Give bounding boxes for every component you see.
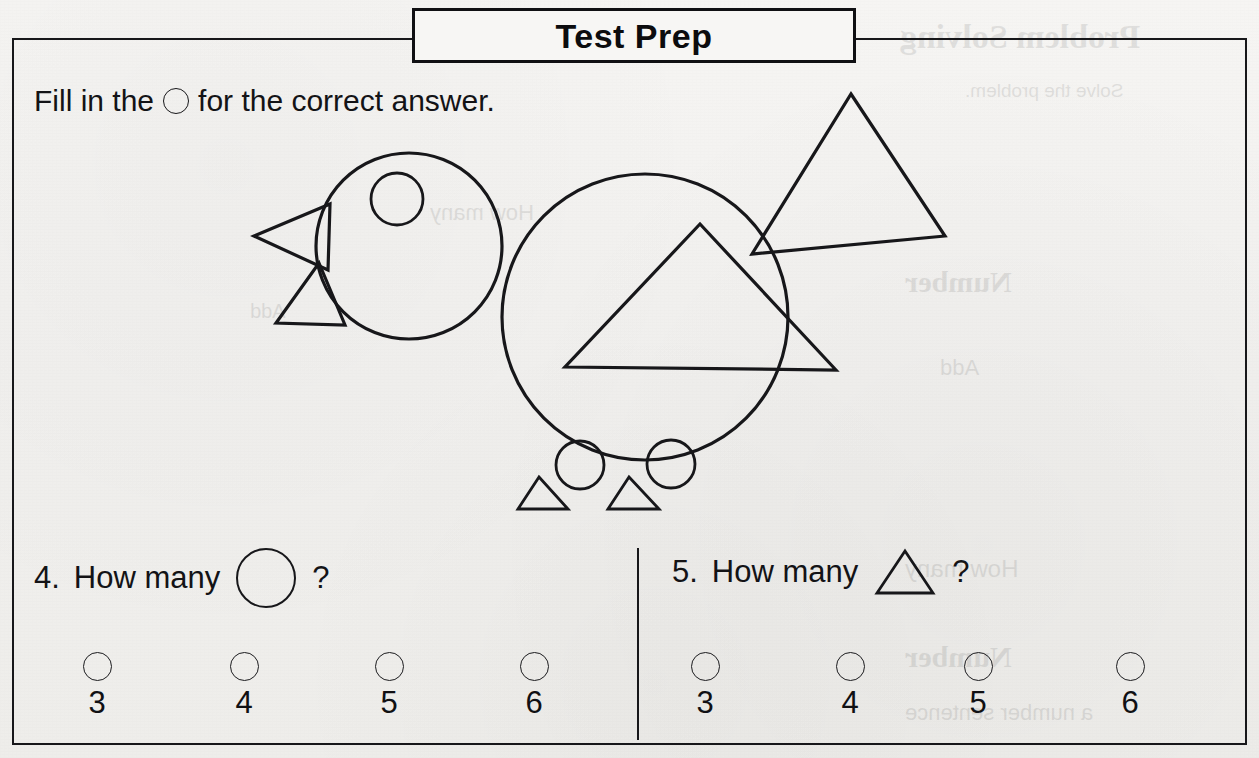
answer-bubble-icon[interactable] [520, 652, 549, 681]
question-text: How many [74, 560, 220, 596]
choice-q5-4[interactable]: 6 [1100, 652, 1160, 718]
title-plate: Test Prep [412, 8, 856, 63]
circle-outline-icon [163, 88, 189, 114]
choice-label: 6 [504, 687, 564, 718]
triangle-outline-icon [874, 548, 936, 596]
choice-q5-1[interactable]: 3 [675, 652, 735, 718]
question-5: 5. How many ? [672, 548, 970, 596]
answer-bubble-icon[interactable] [691, 652, 720, 681]
question-mark: ? [312, 560, 329, 596]
answer-bubble-icon[interactable] [375, 652, 404, 681]
question-number: 5. [672, 554, 698, 590]
answer-bubble-icon[interactable] [964, 652, 993, 681]
page-title: Test Prep [556, 19, 713, 53]
choice-q4-1[interactable]: 3 [67, 652, 127, 718]
circle-outline-icon [236, 548, 296, 608]
choice-label: 4 [820, 687, 880, 718]
instruction-line: Fill in the for the correct answer. [34, 84, 495, 118]
column-divider [637, 548, 639, 740]
worksheet-border [12, 38, 1247, 745]
choice-label: 4 [214, 687, 274, 718]
choice-q5-3[interactable]: 5 [948, 652, 1008, 718]
choice-q4-3[interactable]: 5 [359, 652, 419, 718]
choice-label: 3 [67, 687, 127, 718]
question-4: 4. How many ? [34, 548, 330, 608]
instruction-text-before: Fill in the [34, 84, 154, 118]
answer-bubble-icon[interactable] [1116, 652, 1145, 681]
question-number: 4. [34, 560, 60, 596]
choice-label: 5 [359, 687, 419, 718]
choice-q4-4[interactable]: 6 [504, 652, 564, 718]
choice-q4-2[interactable]: 4 [214, 652, 274, 718]
question-text: How many [712, 554, 858, 590]
choice-label: 6 [1100, 687, 1160, 718]
answer-bubble-icon[interactable] [230, 652, 259, 681]
answer-bubble-icon[interactable] [836, 652, 865, 681]
answer-bubble-icon[interactable] [83, 652, 112, 681]
question-mark: ? [952, 554, 969, 590]
worksheet-page: Problem Solving Solve the problem. Numbe… [0, 0, 1259, 758]
choice-q5-2[interactable]: 4 [820, 652, 880, 718]
instruction-text-after: for the correct answer. [198, 84, 495, 118]
choice-label: 3 [675, 687, 735, 718]
choice-label: 5 [948, 687, 1008, 718]
